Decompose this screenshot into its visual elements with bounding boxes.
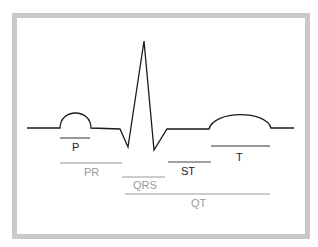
pr-interval-label: PR bbox=[84, 166, 99, 178]
qrs-complex-label: QRS bbox=[133, 179, 157, 191]
ecg-trace bbox=[27, 41, 294, 150]
ecg-diagram: P PR QRS ST T QT bbox=[0, 0, 318, 247]
st-segment-label: ST bbox=[181, 165, 195, 177]
t-wave-label: T bbox=[236, 151, 243, 163]
qt-interval-label: QT bbox=[191, 197, 207, 209]
p-wave-label: P bbox=[72, 141, 79, 153]
